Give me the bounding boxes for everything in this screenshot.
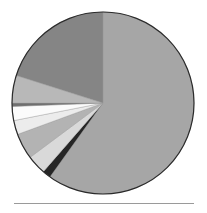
baseline-divider <box>14 203 194 204</box>
pie-slices <box>12 12 194 194</box>
pie-chart <box>0 0 207 213</box>
